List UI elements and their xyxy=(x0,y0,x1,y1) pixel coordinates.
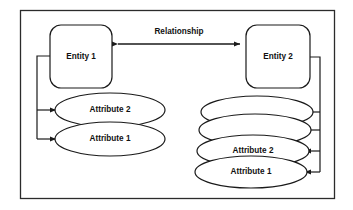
left-attribute-label-1: Attribute 1 xyxy=(90,134,131,143)
right-attribute-label-2: Attribute 2 xyxy=(233,146,274,155)
left-attribute-label-2: Attribute 2 xyxy=(90,105,131,114)
relationship-label: Relationship xyxy=(154,27,203,36)
er-diagram-svg: Entity 1 Entity 2 Relationship Attribute… xyxy=(0,0,353,210)
entity-2-label: Entity 2 xyxy=(263,52,293,61)
entity-1-label: Entity 1 xyxy=(66,52,96,61)
right-attribute-label-1: Attribute 1 xyxy=(231,167,272,176)
er-diagram-canvas: Entity 1 Entity 2 Relationship Attribute… xyxy=(0,0,353,210)
